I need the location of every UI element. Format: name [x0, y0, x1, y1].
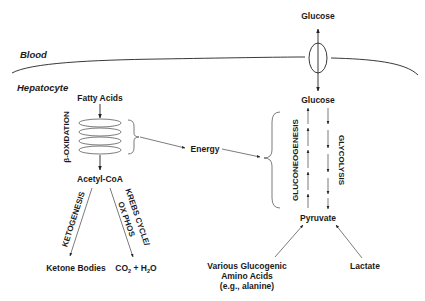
arrow-amino-acids-to-pyruvate	[275, 225, 303, 257]
svg-text:Various Glucogenic: Various Glucogenic	[207, 261, 287, 271]
node-fatty-acids: Fatty Acids	[77, 93, 123, 103]
region-label-blood: Blood	[20, 49, 47, 60]
node-energy: Energy	[191, 144, 220, 154]
node-acetyl-coa: Acetyl-CoA	[77, 174, 123, 184]
beta-oxidation-spiral-icon	[79, 119, 121, 154]
process-ketogenesis: KETOGENESIS	[60, 190, 87, 248]
node-glucose-hepatocyte: Glucose	[301, 95, 335, 105]
beta-oxidation-brace	[128, 120, 139, 154]
node-lactate: Lactate	[350, 261, 380, 271]
cell-membrane	[12, 57, 418, 75]
arrow-energy-to-gluconeogenesis	[222, 149, 260, 157]
node-pyruvate: Pyruvate	[300, 213, 336, 223]
arrow-beta-oxidation-to-energy	[140, 137, 185, 148]
svg-text:(e.g., alanine): (e.g., alanine)	[220, 281, 274, 291]
region-label-hepatocyte: Hepatocyte	[17, 82, 69, 93]
hepatocyte-metabolism-diagram: Blood Hepatocyte Glucose Glucose Fatty A…	[0, 0, 425, 301]
gluconeogenesis-brace	[264, 112, 280, 208]
node-ketone-bodies: Ketone Bodies	[46, 263, 106, 273]
svg-text:Amino Acids: Amino Acids	[221, 271, 273, 281]
node-glucose-blood: Glucose	[301, 11, 335, 21]
process-glycolysis: GLYCOLYSIS	[337, 135, 346, 186]
arrow-lactate-to-pyruvate	[336, 225, 362, 258]
node-glucogenic-amino-acids: Various Glucogenic Amino Acids (e.g., al…	[207, 261, 287, 291]
process-gluconeogenesis: GLUCONEOGENESIS	[291, 118, 300, 200]
process-beta-oxidation: β-OXIDATION	[62, 111, 71, 163]
node-co2-h2o: CO2 + H2O	[115, 263, 157, 274]
